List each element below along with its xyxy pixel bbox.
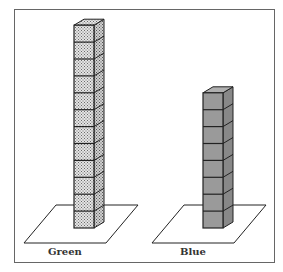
cube-tower-diagram [0, 0, 283, 272]
tower-label-blue: Blue [180, 246, 206, 257]
tower-blue [203, 87, 233, 228]
towers [74, 19, 233, 228]
tower-green [74, 19, 104, 228]
tower-label-green: Green [48, 246, 82, 257]
